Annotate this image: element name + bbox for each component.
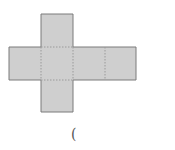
answer-blank: ( [71,126,76,142]
square-right-1 [73,47,105,80]
square-left [9,47,41,80]
cube-net-figure [0,0,175,150]
square-center [41,47,73,80]
cube-net-diagram [0,0,175,150]
square-bottom [41,80,73,112]
square-top [41,14,73,47]
square-right-2 [105,47,136,80]
